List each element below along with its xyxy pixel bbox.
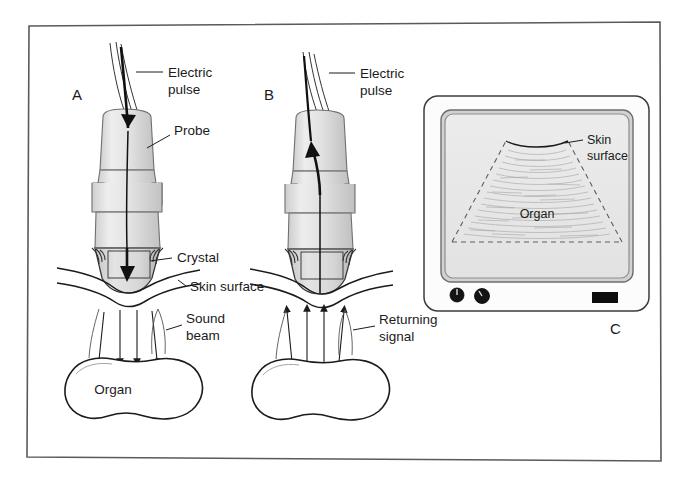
panel-a-sound-beam [89,309,165,360]
label-electric-pulse-b-line2: pulse [360,83,392,98]
label-sound-beam-line1: Sound [186,311,225,326]
label-screen-organ: Organ [520,207,555,221]
label-returning-signal-line1: Returning [379,312,438,327]
label-crystal: Crystal [177,250,219,265]
label-electric-pulse-b-line1: Electric [360,66,405,81]
panel-a-organ-label: Organ [94,382,132,397]
label-returning-signal-line2: signal [379,329,414,344]
label-skin-surface-a: Skin surface [190,279,264,294]
label-sound-beam-line2: beam [186,328,220,343]
monitor-power-indicator [592,292,618,303]
label-electric-pulse-a-line2: pulse [168,82,200,97]
ultrasound-diagram: A [0,0,683,483]
label-screen-skin-surface-line2: surface [587,149,628,163]
label-probe: Probe [174,123,210,138]
panel-c: Skin surface Organ C [424,96,649,337]
panel-b: B [250,52,438,420]
panel-a-letter: A [72,86,82,103]
panel-a-organ: Organ [65,358,203,419]
panel-c-letter: C [610,320,621,337]
panel-b-letter: B [264,86,274,103]
panel-b-organ [252,359,390,420]
figure-root: A [0,0,683,483]
panel-a: A [57,42,264,419]
monitor-case [424,96,649,311]
label-screen-skin-surface-line1: Skin [587,133,611,147]
label-electric-pulse-a-line1: Electric [168,65,213,80]
